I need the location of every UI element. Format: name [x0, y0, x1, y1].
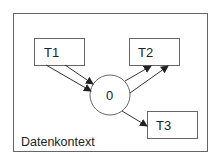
node-circle-0: 0	[90, 75, 130, 115]
node-t2: T2	[130, 39, 180, 66]
edge-0-to-t2-b	[130, 66, 168, 93]
edge-0-to-t2-a	[125, 66, 151, 81]
edge-0-to-t3	[122, 111, 147, 126]
node-t2-label: T2	[138, 45, 153, 60]
node-t3-label: T3	[156, 118, 171, 133]
context-label: Datenkontext	[21, 135, 95, 149]
node-t1: T1	[35, 39, 85, 66]
diagram-canvas: T1 T2 T3 0 Datenkontext	[0, 0, 217, 154]
node-t1-label: T1	[44, 45, 59, 60]
node-t3: T3	[148, 112, 198, 139]
node-circle-label: 0	[106, 88, 113, 103]
edge-t1-to-0-b	[65, 65, 93, 84]
